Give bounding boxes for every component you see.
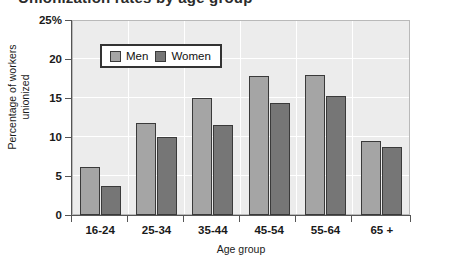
x-axis-title: Age group <box>72 243 410 255</box>
gridline-5 <box>73 175 409 176</box>
x-axis <box>71 215 411 216</box>
bar-women-3544 <box>213 125 233 215</box>
bar-men-3544 <box>192 98 212 215</box>
x-tick <box>71 216 72 222</box>
x-tick-label: 25-34 <box>128 224 184 236</box>
x-tick-label: 45-54 <box>241 224 297 236</box>
chart-title-cropped: Unionization rates by age group <box>0 0 450 9</box>
bar-women-1624 <box>101 186 121 215</box>
x-tick <box>183 216 184 222</box>
y-axis-title-line1: Percentage of workers <box>6 22 19 172</box>
legend-swatch-men-icon <box>110 51 121 62</box>
gridline-15 <box>73 97 409 98</box>
gridline-10 <box>73 136 409 137</box>
bar-women-2534 <box>157 137 177 215</box>
bar-men-5564 <box>305 75 325 215</box>
y-tick <box>65 20 71 21</box>
bar-men-2534 <box>136 123 156 215</box>
x-tick <box>410 216 411 222</box>
bar-men-65+ <box>361 141 381 215</box>
x-tick-label: 35-44 <box>185 224 241 236</box>
bar-women-65+ <box>382 147 402 215</box>
x-tick-label: 16-24 <box>72 224 128 236</box>
y-tick-label: 5 <box>56 170 62 182</box>
x-tick-label: 65 + <box>354 224 410 236</box>
y-tick-label: 20 <box>49 53 62 65</box>
y-tick-label: 0 <box>56 209 62 221</box>
x-tick <box>351 216 352 222</box>
bar-men-4554 <box>249 76 269 215</box>
bar-men-1624 <box>80 167 100 215</box>
bar-women-4554 <box>270 103 290 215</box>
group-separator <box>352 21 353 214</box>
y-tick <box>65 59 71 60</box>
legend-swatch-women-icon <box>155 51 166 62</box>
legend: Men Women <box>100 44 222 68</box>
x-tick <box>239 216 240 222</box>
y-axis <box>71 20 72 216</box>
y-tick-label: 15 <box>49 92 62 104</box>
bar-women-5564 <box>326 96 346 215</box>
group-separator <box>240 21 241 214</box>
legend-item-women: Women <box>155 50 210 62</box>
x-tick-label: 55-64 <box>297 224 353 236</box>
y-tick <box>65 137 71 138</box>
figure: Unionization rates by age group 25% 20 1… <box>0 0 450 272</box>
legend-label-women: Women <box>171 50 210 62</box>
legend-item-men: Men <box>110 50 148 62</box>
y-tick-label: 10 <box>49 131 62 143</box>
y-tick <box>65 176 71 177</box>
y-axis-title: Percentage of workers unionized <box>6 22 32 172</box>
x-tick <box>295 216 296 222</box>
y-tick <box>65 98 71 99</box>
y-axis-title-line2: unionized <box>19 22 32 172</box>
y-tick-label: 25% <box>39 14 62 26</box>
legend-label-men: Men <box>126 50 148 62</box>
group-separator <box>296 21 297 214</box>
x-tick <box>127 216 128 222</box>
